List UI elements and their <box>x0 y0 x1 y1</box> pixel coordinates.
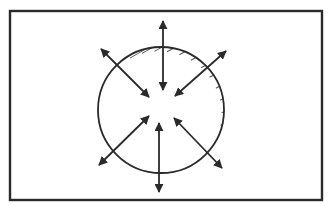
hatch-line <box>142 38 170 54</box>
hatch-line <box>216 66 258 88</box>
hatch-line <box>191 39 231 60</box>
hatch-line <box>220 79 260 100</box>
hatch-line <box>221 106 256 125</box>
diagram-canvas <box>0 0 329 206</box>
hatch-line <box>210 55 252 77</box>
diagram-frame <box>10 11 322 200</box>
arrow-group <box>99 21 226 192</box>
double-arrow-icon-upper-left <box>101 49 149 97</box>
hatch-line <box>130 44 154 58</box>
hatch-line <box>222 92 260 112</box>
hatch-line <box>202 46 244 68</box>
double-arrow-icon-upper-right <box>175 51 226 96</box>
